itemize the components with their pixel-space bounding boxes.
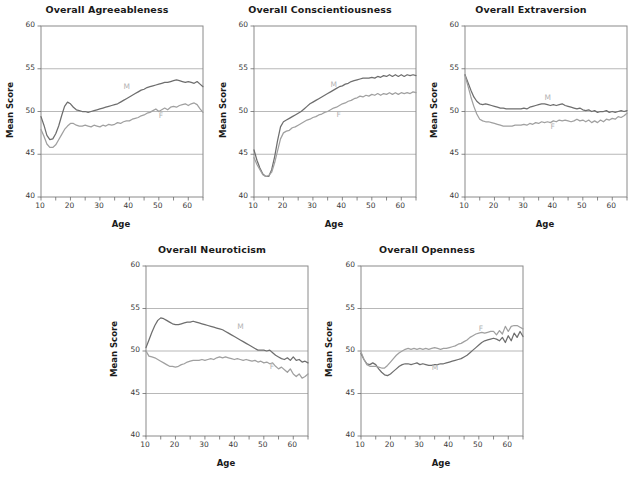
y-tick-label: 40 (16, 191, 35, 200)
y-tick-label: 45 (16, 148, 35, 157)
series-line-female (254, 92, 416, 177)
y-tick-label: 60 (336, 260, 355, 269)
x-axis-label-neuroticism: Age (145, 458, 307, 468)
curve-label-male: M (545, 93, 551, 102)
y-tick-label: 50 (336, 345, 355, 354)
curve-label-female: F (159, 111, 163, 120)
x-tick-label: 20 (379, 440, 399, 449)
series-line-female (146, 351, 308, 378)
x-tick-label: 50 (253, 440, 273, 449)
y-tick-label: 45 (121, 388, 140, 397)
y-tick-label: 60 (121, 260, 140, 269)
y-tick-label: 55 (121, 303, 140, 312)
series-line-female (361, 326, 523, 369)
y-tick-label: 50 (16, 106, 35, 115)
x-tick-label: 30 (194, 440, 214, 449)
x-tick-label: 30 (409, 440, 429, 449)
chart-panel-agreeableness: Overall AgreeablenessMean ScoreAge404550… (0, 0, 214, 238)
curve-label-male: M (237, 322, 243, 331)
y-axis-label-agreeableness: Mean Score (4, 24, 14, 195)
curve-label-male: M (432, 363, 438, 372)
x-tick-label: 30 (89, 201, 109, 210)
plot-area-neuroticism: MF (145, 265, 309, 437)
series-line-male (361, 331, 523, 375)
series-line-male (41, 80, 203, 140)
x-tick-label: 20 (164, 440, 184, 449)
y-tick-label: 45 (336, 388, 355, 397)
y-tick-label: 60 (16, 20, 35, 29)
x-tick-label: 30 (513, 201, 533, 210)
y-tick-label: 40 (121, 430, 140, 439)
x-tick-label: 20 (272, 201, 292, 210)
x-tick-label: 10 (135, 440, 155, 449)
curve-label-female: F (479, 324, 483, 333)
series-line-female (41, 103, 203, 147)
series-line-male (146, 318, 308, 363)
y-tick-label: 60 (229, 20, 248, 29)
panel-title-neuroticism: Overall Neuroticism (105, 244, 319, 255)
plot-area-extraversion: MF (464, 25, 628, 198)
series-line-male (254, 75, 416, 177)
curve-label-female: F (270, 362, 274, 371)
x-tick-label: 40 (438, 440, 458, 449)
x-axis-label-extraversion: Age (464, 219, 626, 229)
panel-title-openness: Overall Openness (320, 244, 534, 255)
y-tick-label: 40 (440, 191, 459, 200)
y-tick-label: 45 (229, 148, 248, 157)
panel-title-extraversion: Overall Extraversion (424, 4, 638, 15)
x-tick-label: 40 (542, 201, 562, 210)
chart-panel-conscientiousness: Overall ConscientiousnessMean ScoreAge40… (213, 0, 427, 238)
y-axis-label-openness: Mean Score (324, 264, 334, 434)
x-tick-label: 20 (59, 201, 79, 210)
plot-area-openness: MF (360, 265, 524, 437)
curve-label-female: F (550, 122, 554, 131)
panel-title-agreeableness: Overall Agreeableness (0, 4, 214, 15)
y-tick-label: 45 (440, 148, 459, 157)
x-tick-label: 60 (282, 440, 302, 449)
y-tick-label: 50 (440, 106, 459, 115)
x-axis-label-agreeableness: Age (40, 219, 202, 229)
x-tick-label: 30 (302, 201, 322, 210)
panel-title-conscientiousness: Overall Conscientiousness (213, 4, 427, 15)
x-tick-label: 40 (331, 201, 351, 210)
curve-label-male: M (331, 80, 337, 89)
y-tick-label: 55 (229, 63, 248, 72)
curve-label-female: F (336, 110, 340, 119)
chart-panel-extraversion: Overall ExtraversionMean ScoreAge4045505… (424, 0, 638, 238)
y-axis-label-extraversion: Mean Score (428, 24, 438, 195)
y-tick-label: 55 (16, 63, 35, 72)
plot-area-conscientiousness: MF (253, 25, 417, 198)
y-tick-label: 55 (336, 303, 355, 312)
x-tick-label: 10 (243, 201, 263, 210)
x-tick-label: 60 (390, 201, 410, 210)
chart-panel-neuroticism: Overall NeuroticismMean ScoreAge40455055… (105, 240, 319, 477)
x-tick-label: 50 (468, 440, 488, 449)
x-tick-label: 60 (601, 201, 621, 210)
x-tick-label: 50 (572, 201, 592, 210)
y-tick-label: 55 (440, 63, 459, 72)
x-tick-label: 10 (454, 201, 474, 210)
y-tick-label: 40 (229, 191, 248, 200)
x-axis-label-conscientiousness: Age (253, 219, 415, 229)
curve-label-male: M (123, 82, 129, 91)
plot-area-agreeableness: MF (40, 25, 204, 198)
x-tick-label: 60 (497, 440, 517, 449)
y-axis-label-neuroticism: Mean Score (109, 264, 119, 434)
y-tick-label: 50 (121, 345, 140, 354)
x-tick-label: 50 (148, 201, 168, 210)
x-axis-label-openness: Age (360, 458, 522, 468)
x-tick-label: 60 (177, 201, 197, 210)
x-tick-label: 50 (361, 201, 381, 210)
y-tick-label: 50 (229, 106, 248, 115)
x-tick-label: 10 (350, 440, 370, 449)
y-tick-label: 60 (440, 20, 459, 29)
x-tick-label: 40 (118, 201, 138, 210)
x-tick-label: 20 (483, 201, 503, 210)
chart-panel-openness: Overall OpennessMean ScoreAge40455055601… (320, 240, 534, 477)
x-tick-label: 40 (223, 440, 243, 449)
x-tick-label: 10 (30, 201, 50, 210)
y-tick-label: 40 (336, 430, 355, 439)
y-axis-label-conscientiousness: Mean Score (217, 24, 227, 195)
